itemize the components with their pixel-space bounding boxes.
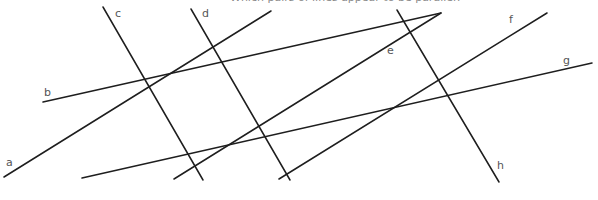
label-a: a <box>6 157 13 168</box>
lines-diagram <box>0 0 598 200</box>
label-f: f <box>509 14 513 25</box>
label-c: c <box>115 8 121 19</box>
label-e: e <box>387 45 394 56</box>
label-h: h <box>497 160 504 171</box>
label-g: g <box>563 55 570 66</box>
label-b: b <box>44 87 51 98</box>
line-e <box>174 13 441 179</box>
line-b <box>43 13 441 102</box>
line-d <box>191 9 290 180</box>
label-d: d <box>202 8 209 19</box>
